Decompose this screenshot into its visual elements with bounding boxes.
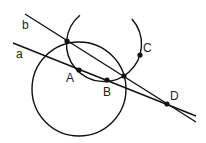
point-b	[104, 77, 109, 82]
point-label-d: D	[170, 89, 179, 103]
point-d	[164, 101, 169, 106]
line-label-a: a	[16, 47, 23, 61]
point-label-b: B	[103, 85, 111, 99]
point-label-a: A	[66, 71, 74, 85]
intersection-point-5	[121, 73, 126, 78]
line-label-b: b	[22, 18, 29, 32]
line-b	[25, 14, 196, 122]
point-a	[76, 67, 81, 72]
intersection-point-4	[64, 38, 69, 43]
point-label-c: C	[143, 41, 152, 55]
geometry-diagram: abABCD	[0, 0, 206, 143]
point-c	[137, 52, 142, 57]
